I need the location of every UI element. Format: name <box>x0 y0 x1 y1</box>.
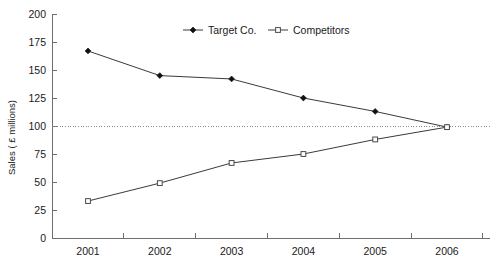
data-point-marker <box>86 199 91 204</box>
legend-label: Competitors <box>293 24 350 36</box>
chart-canvas: Sales ( £ millions) 02550751001251501752… <box>0 0 498 269</box>
data-point-marker <box>301 152 306 157</box>
y-tick-label: 0 <box>40 232 46 244</box>
series-2 <box>86 125 450 204</box>
legend-item-2: Competitors <box>268 24 350 36</box>
legend-marker <box>276 28 281 33</box>
data-point-marker <box>301 95 307 101</box>
x-axis-tick-marks <box>52 233 483 238</box>
y-axis-title: Sales ( £ millions) <box>6 100 17 175</box>
legend-marker <box>190 27 196 33</box>
x-tick-label: 2003 <box>220 245 244 257</box>
x-tick-label: 2001 <box>76 245 100 257</box>
y-tick-label: 200 <box>28 8 46 20</box>
data-point-marker <box>445 125 450 130</box>
x-tick-label: 2004 <box>292 245 316 257</box>
series-line <box>88 51 447 127</box>
x-tick-label: 2005 <box>364 245 388 257</box>
data-point-marker <box>85 48 91 54</box>
legend-item-1: Target Co. <box>183 24 256 36</box>
data-point-marker <box>157 181 162 186</box>
y-tick-label: 175 <box>28 36 46 48</box>
y-tick-label: 150 <box>28 64 46 76</box>
y-tick-label: 125 <box>28 92 46 104</box>
data-point-marker <box>373 137 378 142</box>
series-1 <box>85 48 450 130</box>
y-tick-label: 50 <box>34 176 46 188</box>
y-tick-label: 25 <box>34 204 46 216</box>
series-layer <box>85 48 450 203</box>
y-axis-tick-labels: 0255075100125150175200 <box>28 8 46 244</box>
data-point-marker <box>157 73 163 79</box>
chart-legend: Target Co.Competitors <box>183 24 350 36</box>
x-axis-tick-labels: 200120022003200420052006 <box>76 245 459 257</box>
y-tick-label: 75 <box>34 148 46 160</box>
series-line <box>88 127 447 201</box>
x-tick-label: 2002 <box>148 245 172 257</box>
y-tick-label: 100 <box>28 120 46 132</box>
data-point-marker <box>229 76 235 82</box>
data-point-marker <box>372 109 378 115</box>
legend-label: Target Co. <box>208 24 256 36</box>
data-point-marker <box>229 161 234 166</box>
line-chart: Sales ( £ millions) 02550751001251501752… <box>0 0 498 269</box>
x-tick-label: 2006 <box>435 245 459 257</box>
